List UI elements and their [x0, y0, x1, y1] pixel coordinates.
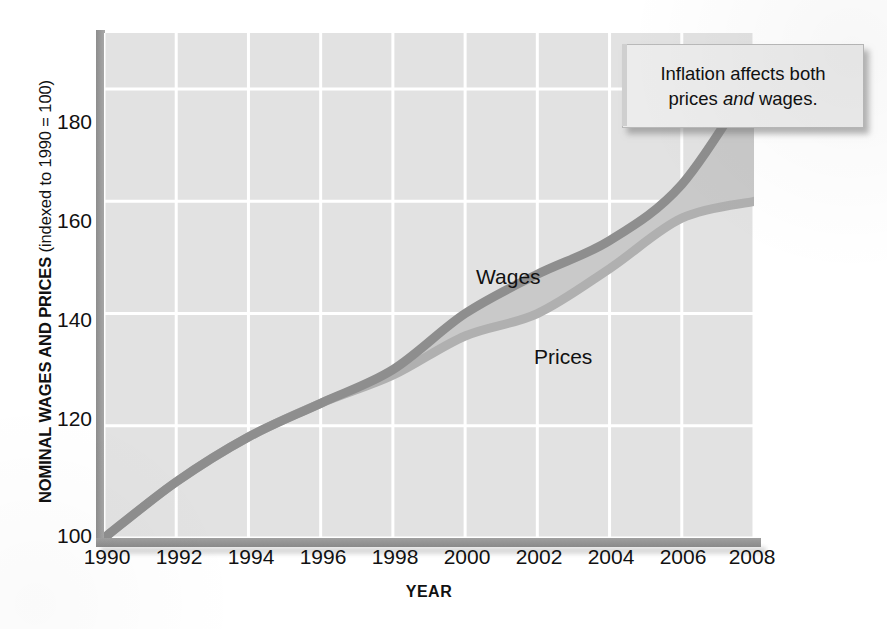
- x-tick-2000: 2000: [432, 545, 502, 569]
- x-tick-1994: 1994: [216, 545, 286, 569]
- inflation-callout-text: Inflation affects both prices and wages.: [650, 61, 835, 111]
- inflation-callout: Inflation affects both prices and wages.: [622, 44, 864, 128]
- x-tick-1990: 1990: [72, 545, 142, 569]
- x-tick-1996: 1996: [288, 545, 358, 569]
- callout-left-edge: [622, 44, 627, 126]
- callout-line-2-before: prices: [668, 88, 723, 109]
- callout-line-2-italic: and: [723, 88, 754, 109]
- callout-line-1: Inflation affects both: [660, 63, 825, 84]
- x-tick-2006: 2006: [648, 545, 718, 569]
- prices-line: [104, 201, 754, 538]
- callout-line-2-after: wages.: [754, 88, 818, 109]
- chart-figure: NOMINAL WAGES AND PRICES (indexed to 199…: [0, 0, 887, 629]
- y-tick-140: 140: [40, 308, 92, 332]
- x-tick-2004: 2004: [576, 545, 646, 569]
- x-tick-2008: 2008: [717, 545, 787, 569]
- series-label-wages: Wages: [476, 265, 541, 289]
- x-tick-1998: 1998: [360, 545, 430, 569]
- x-tick-2002: 2002: [504, 545, 574, 569]
- series-label-prices: Prices: [534, 345, 592, 369]
- x-tick-1992: 1992: [144, 545, 214, 569]
- y-tick-160: 160: [40, 209, 92, 233]
- x-axis-title: YEAR: [406, 583, 452, 600]
- wages-line: [104, 78, 754, 538]
- y-tick-180: 180: [40, 110, 92, 134]
- x-axis-tick-labels: 1990 1992 1994 1996 1998 2000 2002 2004 …: [0, 545, 887, 577]
- y-axis-tick-labels: 180 160 140 120 100: [30, 0, 92, 629]
- x-axis-title-wrap: YEAR: [104, 583, 754, 601]
- y-tick-120: 120: [40, 407, 92, 431]
